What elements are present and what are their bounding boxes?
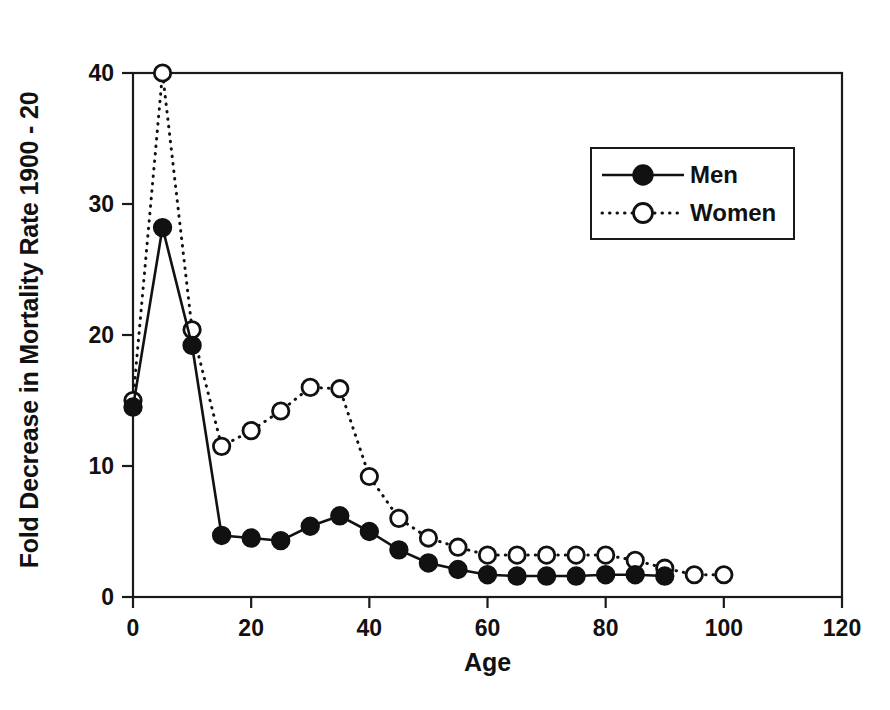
data-point — [154, 219, 171, 236]
x-tick-label: 80 — [593, 615, 619, 642]
series-men — [124, 219, 673, 585]
legend-label-women: Women — [690, 199, 776, 227]
y-tick-label: 0 — [38, 584, 114, 611]
data-point — [361, 468, 377, 484]
data-point — [716, 567, 732, 583]
x-tick-label: 100 — [705, 615, 743, 642]
data-point — [273, 403, 289, 419]
y-tick-label: 40 — [38, 60, 114, 87]
x-tick-label: 40 — [357, 615, 383, 642]
x-tick-label: 60 — [475, 615, 501, 642]
x-tick-label: 0 — [127, 615, 140, 642]
data-point — [538, 547, 554, 563]
x-tick-label: 120 — [823, 615, 861, 642]
data-point — [243, 529, 260, 546]
data-point — [331, 507, 348, 524]
data-point — [479, 566, 496, 583]
data-point — [568, 567, 585, 584]
data-point — [243, 422, 259, 438]
data-point — [597, 566, 614, 583]
data-point — [686, 567, 702, 583]
legend-entry-men: Men — [600, 158, 738, 192]
data-point — [183, 337, 200, 354]
data-point — [390, 541, 407, 558]
data-point — [391, 510, 407, 526]
data-point — [420, 530, 436, 546]
legend-key-women — [600, 198, 686, 228]
data-point — [656, 567, 673, 584]
data-point — [508, 567, 525, 584]
data-point — [272, 532, 289, 549]
y-tick-label: 10 — [38, 453, 114, 480]
legend: Men Women — [590, 147, 795, 240]
data-point — [597, 547, 613, 563]
data-point — [627, 566, 644, 583]
scan-caption-fragment — [24, 697, 868, 709]
data-point — [509, 547, 525, 563]
data-point — [302, 379, 318, 395]
data-point — [154, 65, 170, 81]
data-point — [450, 539, 466, 555]
data-point — [449, 561, 466, 578]
data-point — [213, 527, 230, 544]
legend-label-men: Men — [690, 161, 738, 189]
data-point — [361, 523, 378, 540]
data-point — [420, 554, 437, 571]
data-point — [568, 547, 584, 563]
legend-key-men — [600, 160, 686, 190]
y-tick-label: 30 — [38, 191, 114, 218]
y-tick-label: 20 — [38, 322, 114, 349]
legend-entry-women: Women — [600, 196, 776, 230]
figure-root: Fold Decrease in Mortality Rate 1900 - 2… — [0, 0, 890, 710]
data-point — [302, 518, 319, 535]
plot-area — [0, 0, 890, 710]
data-point — [332, 381, 348, 397]
x-tick-label: 20 — [238, 615, 264, 642]
data-point — [479, 547, 495, 563]
data-point — [213, 438, 229, 454]
data-point — [538, 567, 555, 584]
data-point — [124, 398, 141, 415]
